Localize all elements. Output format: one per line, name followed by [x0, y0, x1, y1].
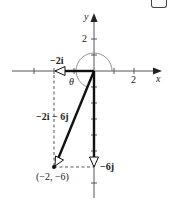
- y-tick-label: 2: [82, 34, 87, 44]
- vector-resultant-arrowhead-icon: [55, 156, 64, 166]
- y-axis-label: y: [84, 12, 88, 22]
- theta-label: θ: [69, 77, 74, 87]
- corner-icon: [151, 0, 167, 8]
- vector-neg-2i-label: −2i: [50, 56, 63, 66]
- vector-diagram: [0, 0, 172, 200]
- theta-arc: [76, 71, 87, 87]
- vector-neg-6j-arrowhead-icon: [90, 157, 99, 167]
- vector-neg-2i-arrowhead-icon: [55, 67, 65, 76]
- x-tick-label: 2: [131, 75, 136, 85]
- vector-neg-6j-label: −6j: [100, 162, 114, 172]
- point-label: (−2, −6): [36, 172, 69, 182]
- point-marker: [52, 165, 56, 169]
- x-axis-label: x: [156, 74, 160, 84]
- y-axis-arrow-icon: [91, 13, 98, 22]
- vector-resultant-label: −2i − 6j: [36, 112, 69, 122]
